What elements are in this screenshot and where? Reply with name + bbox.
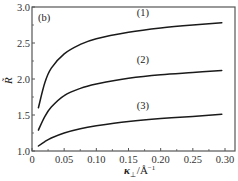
x-axis-unit: /Å <box>137 164 148 176</box>
curve-label-2: (2) <box>137 54 150 66</box>
x-tick-label: 0.05 <box>55 154 73 165</box>
y-axis-label-text: R̃ <box>2 77 14 85</box>
panel-label: (b) <box>38 12 51 24</box>
curve-3 <box>38 114 221 146</box>
curve-label-1: (1) <box>137 7 150 19</box>
y-axis-label: R̃ <box>2 77 14 85</box>
plot-frame <box>32 7 235 151</box>
x-tick-label: 0.30 <box>216 154 234 165</box>
y-tick-label: 3.0 <box>17 2 30 13</box>
y-tick-label: 2.0 <box>17 74 30 85</box>
x-axis-label: κ⊥/Å−1 <box>124 164 156 179</box>
curve-labels: (1)(2)(3) <box>137 7 150 112</box>
x-axis-unit-sup: −1 <box>148 164 156 172</box>
y-tick-label: 1.0 <box>17 146 30 157</box>
y-tick-label: 1.5 <box>17 110 30 121</box>
curves <box>38 23 221 146</box>
x-tick-label: 0 <box>29 154 34 165</box>
axes-box <box>32 7 235 151</box>
line-chart: 00.050.100.150.200.250.30 1.01.52.02.53.… <box>0 0 238 181</box>
x-tick-label: 0.10 <box>87 154 105 165</box>
x-axis-label-text: κ⊥/Å−1 <box>124 164 156 179</box>
y-tick-label: 2.5 <box>17 38 30 49</box>
x-tick-label: 0.25 <box>184 154 202 165</box>
curve-label-3: (3) <box>137 100 150 112</box>
x-axis-subscript: ⊥ <box>130 171 136 179</box>
